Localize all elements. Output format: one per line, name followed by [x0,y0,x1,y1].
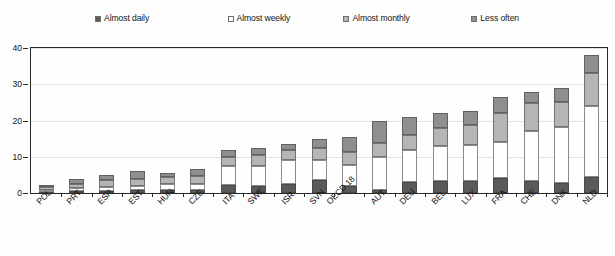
chart-legend: Almost dailyAlmost weeklyAlmost monthlyL… [58,10,558,27]
bar-segment-almost-monthly [190,176,205,184]
y-axis-tick-mark [23,48,28,49]
bar-segment-less-often [342,137,357,152]
bar-segment-less-often [251,148,266,155]
bar-segment-less-often [524,92,539,104]
y-axis-tick-label: 30 [12,80,22,89]
x-axis-tick-mark [395,194,396,197]
bar-segment-almost-weekly [402,150,417,183]
bar-segment-less-often [69,179,84,184]
x-axis-tick-mark [516,194,517,197]
legend-swatch-icon [228,16,234,22]
legend-label: Almost weekly [237,14,291,23]
x-axis-tick-mark [304,194,305,197]
bar-segment-almost-weekly [221,166,236,186]
y-axis-tick-label: 40 [12,44,22,53]
bar-ita[interactable] [221,150,236,194]
y-axis-tick-mark [23,121,28,122]
bar-lux[interactable] [463,111,478,193]
chart-root: Almost dailyAlmost weeklyAlmost monthlyL… [0,0,615,256]
bar-segment-almost-monthly [342,152,357,165]
bar-deu[interactable] [402,117,417,193]
legend-swatch-icon [471,16,477,22]
x-axis-tick-mark [607,194,608,197]
y-axis-tick-label: 0 [17,189,22,198]
x-axis-tick-mark [92,194,93,197]
bar-segment-less-often [554,88,569,102]
bar-che[interactable] [524,92,539,194]
y-axis-tick-mark [23,84,28,85]
bar-segment-less-often [433,113,448,128]
bar-segment-almost-weekly [281,160,296,183]
bar-series-container [31,48,607,193]
bar-dnk[interactable] [554,88,569,193]
bar-segment-less-often [99,175,114,180]
x-axis-tick-mark [213,194,214,197]
legend-swatch-icon [343,16,349,22]
x-axis-tick-mark [577,194,578,197]
x-axis-tick-mark [364,194,365,197]
bar-segment-almost-weekly [372,157,387,190]
y-axis-tick-mark [23,193,28,194]
legend-less-often[interactable]: Less often [458,14,558,23]
legend-almost-monthly[interactable]: Almost monthly [335,14,458,23]
bar-segment-less-often [281,144,296,149]
bar-segment-almost-monthly [402,135,417,150]
legend-almost-weekly[interactable]: Almost weekly [228,14,336,23]
x-axis-tick-mark [61,194,62,197]
x-axis-tick-mark [546,194,547,197]
bar-segment-almost-weekly [524,131,539,182]
legend-label: Almost daily [104,14,149,23]
y-axis-tick-label: 20 [12,116,22,125]
bar-segment-almost-monthly [130,179,145,186]
y-axis: 010203040 [0,47,28,195]
bar-segment-less-often [493,97,508,113]
bar-segment-less-often [130,171,145,178]
bar-segment-almost-monthly [584,73,599,106]
bar-nld[interactable] [584,55,599,193]
bar-segment-almost-monthly [372,143,387,158]
bar-segment-almost-weekly [463,145,478,181]
y-axis-tick-label: 10 [12,152,22,161]
x-axis-tick-mark [122,194,123,197]
bar-segment-almost-monthly [251,155,266,166]
bar-segment-almost-monthly [433,128,448,146]
bar-segment-less-often [312,139,327,148]
bar-aut[interactable] [372,121,387,194]
bar-segment-almost-weekly [493,142,508,178]
bar-isr[interactable] [281,144,296,193]
bar-segment-less-often [160,173,175,177]
bar-segment-less-often [463,111,478,125]
x-axis-tick-mark [425,194,426,197]
bar-segment-almost-monthly [493,113,508,142]
bar-segment-almost-monthly [524,103,539,130]
bar-segment-almost-monthly [554,102,569,127]
bar-fra[interactable] [493,97,508,193]
bar-segment-less-often [584,55,599,73]
bar-segment-almost-weekly [251,166,266,186]
x-axis-tick-mark [243,194,244,197]
bar-bel[interactable] [433,113,448,193]
x-axis-tick-mark [455,194,456,197]
bar-segment-almost-monthly [312,148,327,161]
y-axis-tick-mark [23,157,28,158]
x-axis-labels: POLPRTESPESTHUNCZEITASWEISRSVNOECD 18AUT… [31,198,607,254]
bar-segment-less-often [372,121,387,143]
bar-segment-almost-monthly [281,150,296,161]
x-axis-tick-mark [486,194,487,197]
bar-svn[interactable] [312,139,327,193]
bar-segment-almost-monthly [221,157,236,166]
legend-almost-daily[interactable]: Almost daily [58,14,228,23]
bar-segment-almost-monthly [160,177,175,184]
x-axis-tick-mark [152,194,153,197]
bar-segment-less-often [190,169,205,175]
legend-swatch-icon [95,16,101,22]
legend-label: Almost monthly [352,14,409,23]
bar-segment-almost-monthly [463,125,478,145]
x-axis-tick-mark [274,194,275,197]
legend-label: Less often [480,14,519,23]
bar-segment-almost-weekly [554,127,569,183]
bar-segment-almost-weekly [433,146,448,180]
bar-segment-less-often [221,150,236,157]
bar-segment-almost-weekly [584,106,599,177]
x-axis-tick-mark [183,194,184,197]
